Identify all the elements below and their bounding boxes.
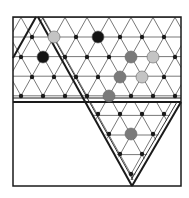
grid-line	[72, 0, 189, 198]
grid-line	[0, 0, 107, 198]
right-triangle-inner-edge	[131, 102, 177, 180]
light-gray-peg	[48, 31, 60, 43]
lattice-dot	[162, 35, 166, 39]
lattice-dot	[85, 55, 89, 59]
dark-gray-peg	[114, 71, 126, 83]
lattice-dot	[140, 112, 144, 116]
triangular-peg-board	[0, 0, 189, 198]
lattice-dot	[85, 94, 89, 98]
grid-line	[160, 0, 189, 198]
lattice-dot	[162, 112, 166, 116]
lattice-dot	[118, 152, 122, 156]
grid-line	[177, 0, 189, 198]
lattice-dot	[129, 172, 133, 176]
grid-line	[0, 0, 102, 198]
lattice-dot	[63, 94, 67, 98]
grid-line	[0, 0, 14, 198]
lattice-dot	[173, 94, 177, 98]
grid-line	[177, 0, 189, 198]
grid-line	[0, 0, 80, 198]
lattice-dot	[173, 55, 177, 59]
right-triangle-edge	[132, 102, 181, 186]
grid-line	[182, 0, 189, 198]
lattice-dot	[118, 35, 122, 39]
lattice-dot	[96, 75, 100, 79]
grid-line	[182, 0, 189, 198]
grid-line	[0, 0, 36, 198]
lattice-dot	[19, 94, 23, 98]
lattice-dot	[96, 112, 100, 116]
lattice-dot	[107, 55, 111, 59]
lattice-dot	[151, 132, 155, 136]
lattice-dot	[74, 35, 78, 39]
grid-line	[0, 0, 63, 198]
grid-line	[72, 0, 189, 198]
lattice-dot	[162, 75, 166, 79]
light-gray-peg	[136, 71, 148, 83]
grid-line	[0, 0, 107, 198]
lattice-dot	[151, 94, 155, 98]
grid-line	[0, 0, 63, 198]
lattice-dot	[41, 94, 45, 98]
grid-line	[0, 0, 80, 198]
lattice-dot	[30, 35, 34, 39]
grid-line	[0, 0, 36, 198]
lattice-dot	[140, 35, 144, 39]
dark-gray-peg	[125, 128, 137, 140]
dark-gray-peg	[103, 90, 115, 102]
grid-line	[0, 0, 41, 198]
black-peg	[92, 31, 104, 43]
grid-line	[160, 0, 189, 198]
lattice-dot	[129, 94, 133, 98]
lattice-dot	[140, 152, 144, 156]
lattice-dot	[30, 75, 34, 79]
lattice-dot	[107, 132, 111, 136]
dark-gray-peg	[125, 51, 137, 63]
grid-line	[0, 0, 102, 198]
grid-line	[0, 0, 14, 198]
grid-line	[0, 0, 19, 198]
grid-line	[0, 0, 19, 198]
lattice-dot	[52, 75, 56, 79]
lattice-dot	[63, 55, 67, 59]
lattice-dot	[19, 55, 23, 59]
lattice-dot	[118, 112, 122, 116]
light-gray-peg	[147, 51, 159, 63]
black-peg	[37, 51, 49, 63]
lattice-dot	[74, 75, 78, 79]
grid-line	[0, 0, 41, 198]
